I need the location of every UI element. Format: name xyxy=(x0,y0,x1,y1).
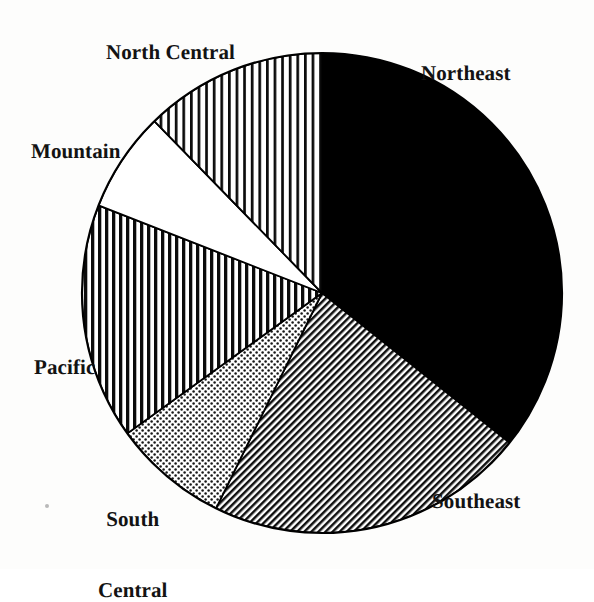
pie-label-pacific: Pacific xyxy=(34,356,95,380)
pie-label-southeast: Southeast xyxy=(432,490,520,514)
pie-label-south-central: South Central xyxy=(98,461,168,602)
scan-speck xyxy=(45,504,49,508)
pie-label-south-central-line1: South xyxy=(98,508,168,532)
pie-label-mountain: Mountain xyxy=(31,140,121,164)
pie-label-north-central: North Central xyxy=(106,41,235,65)
pie-label-northeast: Northeast xyxy=(421,62,511,86)
pie-label-south-central-line2: Central xyxy=(98,579,168,602)
